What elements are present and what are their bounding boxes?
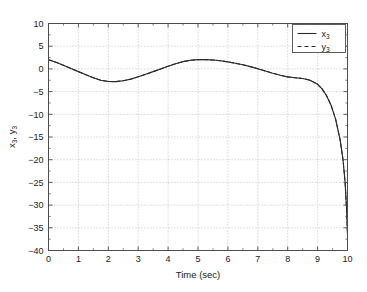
x-tick-label: 6: [225, 254, 230, 264]
x-tick-label: 4: [166, 254, 171, 264]
x-tick-label: 7: [255, 254, 260, 264]
y-tick-label: −5: [33, 87, 43, 97]
y-tick-label: −30: [28, 200, 43, 210]
y-tick-label: 10: [33, 19, 43, 29]
x-tick-label: 10: [342, 254, 352, 264]
x-tick-label: 3: [136, 254, 141, 264]
y-tick-label: −20: [28, 155, 43, 165]
line-chart: 0123456789101050−5−10−15−20−25−30−35−40T…: [0, 0, 367, 292]
y-tick-label: 5: [38, 41, 43, 51]
chart-figure: 0123456789101050−5−10−15−20−25−30−35−40T…: [0, 0, 367, 292]
x-tick-label: 2: [106, 254, 111, 264]
x-tick-label: 1: [76, 254, 81, 264]
y-tick-label: −25: [28, 178, 43, 188]
y-tick-label: −10: [28, 110, 43, 120]
y-tick-label: −15: [28, 132, 43, 142]
x-axis-title: Time (sec): [176, 269, 221, 280]
x-tick-label: 0: [46, 254, 51, 264]
y-tick-label: 0: [38, 64, 43, 74]
y-tick-label: −40: [28, 246, 43, 256]
x-tick-label: 8: [285, 254, 290, 264]
legend-box: [293, 25, 346, 53]
y-tick-label: −35: [28, 223, 43, 233]
y-axis-title: x3, y3: [6, 126, 18, 148]
x-tick-label: 5: [195, 254, 200, 264]
x-tick-label: 9: [315, 254, 320, 264]
